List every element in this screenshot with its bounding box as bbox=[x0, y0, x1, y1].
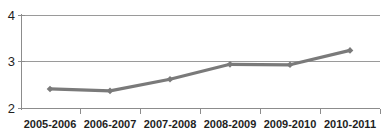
data-point-2009-2010 bbox=[287, 61, 294, 68]
x-axis-label-2009-2010: 2009-2010 bbox=[264, 118, 317, 130]
x-axis-label-2007-2008: 2007-2008 bbox=[144, 118, 197, 130]
data-point-2007-2008 bbox=[167, 76, 174, 83]
x-axis-label-2008-2009: 2008-2009 bbox=[204, 118, 257, 130]
data-point-2010-2011 bbox=[347, 47, 354, 54]
y-axis-label-3: 3 bbox=[8, 54, 15, 69]
data-point-2008-2009 bbox=[227, 61, 234, 68]
x-axis-label-2006-2007: 2006-2007 bbox=[84, 118, 137, 130]
y-axis-label-2: 2 bbox=[8, 101, 15, 116]
plot-area: 4 3 2 2005-2006 2006-2007 2007-2008 2008… bbox=[0, 0, 388, 138]
data-point-2006-2007 bbox=[107, 88, 114, 95]
x-axis-label-2005-2006: 2005-2006 bbox=[24, 118, 77, 130]
data-point-2005-2006 bbox=[47, 86, 54, 93]
series-line-invested bbox=[50, 50, 350, 90]
line-chart: Invested 4 3 2 2005-2006 2006-2007 2007-… bbox=[0, 0, 388, 138]
x-axis-label-2010-2011: 2010-2011 bbox=[324, 118, 376, 130]
y-axis-label-4: 4 bbox=[8, 8, 15, 23]
